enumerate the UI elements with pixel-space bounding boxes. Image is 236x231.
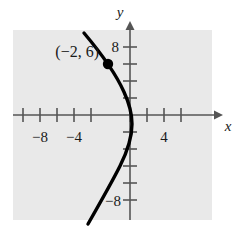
coordinate-plane-svg: y x −8 −4 4 8 −8 (−2, 6) — [0, 0, 236, 231]
plotted-point-marker — [103, 59, 113, 69]
point-annotation-label: (−2, 6) — [55, 43, 99, 61]
x-axis-arrowhead — [214, 111, 223, 120]
y-axis-arrowhead — [126, 21, 135, 30]
y-tick-label-minus8: −8 — [105, 193, 121, 209]
graph-figure: y x −8 −4 4 8 −8 (−2, 6) — [0, 0, 236, 231]
x-tick-label-minus8: −8 — [32, 129, 48, 145]
x-tick-label-minus4: −4 — [66, 129, 82, 145]
x-tick-label-4: 4 — [160, 129, 168, 145]
y-tick-label-8: 8 — [112, 39, 120, 55]
plot-background-panel — [13, 30, 212, 220]
y-axis-label: y — [115, 4, 124, 20]
x-axis-label: x — [224, 118, 232, 134]
